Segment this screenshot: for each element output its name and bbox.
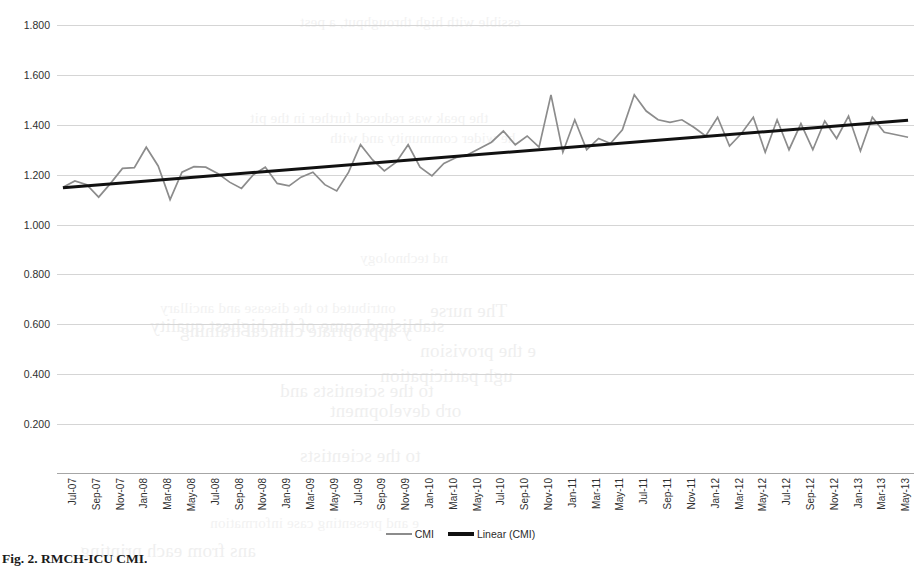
x-tick-label: Sep-07 [91,478,102,510]
x-tick-label: Mar-08 [162,478,173,510]
x-tick-label: May-09 [329,478,340,511]
legend-item-linear-cmi[interactable]: Linear (CMI) [448,528,535,540]
x-tick-label: May-08 [186,478,197,511]
x-tick-label: Sep-11 [662,478,673,510]
x-tick-label: Jul-08 [210,478,221,505]
x-tick-label: Sep-12 [805,478,816,510]
y-tick-label: 0.200 [24,418,50,430]
x-tick-label: Jan-10 [424,478,435,509]
y-tick-label: 0.600 [24,318,50,330]
x-tick-label: Mar-13 [876,478,887,510]
linear-trendline [63,120,908,187]
x-tick-label: Jan-09 [281,478,292,509]
x-tick-label: Sep-09 [376,478,387,510]
legend-item-cmi[interactable]: CMI [386,528,434,540]
x-tick-label: May-10 [472,478,483,511]
x-tick-label: Nov-07 [115,478,126,510]
x-tick-label: May-11 [614,478,625,511]
y-tick-label: 1.000 [24,219,50,231]
line-swatch-gray [386,533,412,536]
x-tick-label: Jul-11 [638,478,649,505]
x-tick-label: Nov-09 [400,478,411,510]
legend-label: Linear (CMI) [477,528,535,540]
x-tick-label: Mar-12 [734,478,745,510]
x-tick-label: May-13 [900,478,911,511]
x-tick-label: Jul-12 [781,478,792,505]
x-tick-label: Nov-11 [686,478,697,510]
x-tick-label: Mar-10 [448,478,459,510]
y-tick-label: 1.400 [24,119,50,131]
x-tick-label: Mar-09 [305,478,316,510]
x-tick-label: Sep-10 [519,478,530,510]
plot-area [57,25,914,474]
x-axis-line [57,473,914,474]
x-tick-label: Jan-12 [710,478,721,509]
y-tick-label: 0.400 [24,368,50,380]
x-tick-label: Jul-07 [67,478,78,505]
x-tick-label: Nov-12 [829,478,840,510]
x-tick-label: Jul-10 [495,478,506,505]
series-layer [57,25,914,474]
x-tick-label: Jan-08 [138,478,149,509]
legend-label: CMI [415,528,434,540]
x-tick-label: Nov-10 [543,478,554,510]
cmi-series-line [63,95,908,200]
y-tick-label: 0.800 [24,268,50,280]
y-tick-label: 1.800 [24,19,50,31]
x-tick-label: Jul-09 [353,478,364,505]
x-tick-label: May-12 [757,478,768,511]
figure-caption: Fig. 2. RMCH-ICU CMI. [2,551,147,567]
figure-container: essible with high throughput, a pestthe … [0,0,921,567]
x-tick-label: Mar-11 [591,478,602,509]
x-tick-label: Nov-08 [257,478,268,510]
x-tick-label: Jan-11 [567,478,578,508]
y-tick-label: 1.600 [24,69,50,81]
line-swatch-black [448,532,474,536]
chart-legend: CMILinear (CMI) [0,528,921,540]
x-tick-label: Sep-08 [234,478,245,510]
x-tick-label: Jan-13 [853,478,864,509]
y-tick-label: 1.200 [24,169,50,181]
y-axis-labels: 0.2000.4000.6000.8001.0001.2001.4001.600… [0,25,50,474]
